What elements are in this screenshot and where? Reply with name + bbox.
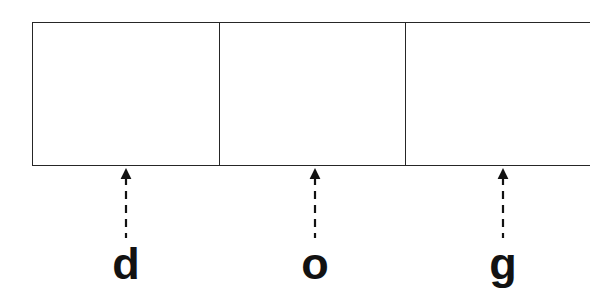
segmented-box (32, 22, 590, 166)
box-cell-1 (33, 23, 219, 165)
pointer-group-o: o (275, 166, 355, 286)
box-cell-2 (219, 23, 405, 165)
up-arrow-dashed-icon (305, 166, 325, 240)
pointer-group-g: g (463, 166, 543, 286)
pointer-label-g: g (489, 242, 517, 286)
diagram-canvas: d o g (0, 0, 614, 293)
pointer-label-o: o (301, 242, 329, 286)
up-arrow-dashed-icon (493, 166, 513, 240)
box-cell-3 (405, 23, 591, 165)
pointer-label-d: d (112, 242, 140, 286)
pointer-group-d: d (86, 166, 166, 286)
up-arrow-dashed-icon (116, 166, 136, 240)
